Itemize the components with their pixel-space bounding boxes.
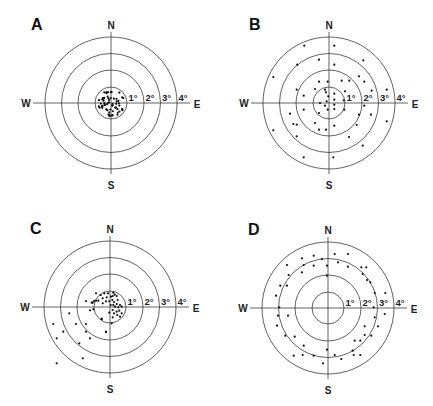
panel-letter: C xyxy=(30,220,42,237)
data-point xyxy=(341,80,343,82)
data-point xyxy=(118,102,120,104)
data-point xyxy=(313,255,315,257)
data-point xyxy=(116,114,118,116)
data-point xyxy=(78,342,80,344)
data-point xyxy=(322,362,324,364)
data-point xyxy=(284,335,286,337)
data-point xyxy=(98,99,100,101)
data-point xyxy=(360,266,362,268)
data-point xyxy=(318,129,320,131)
data-point xyxy=(363,105,365,107)
data-point xyxy=(340,358,342,360)
data-point xyxy=(93,300,95,302)
data-point xyxy=(362,273,364,275)
panel-letter: D xyxy=(248,221,260,238)
data-point xyxy=(332,156,334,158)
data-point xyxy=(325,129,327,131)
data-point xyxy=(95,300,97,302)
data-point xyxy=(286,264,288,266)
data-point xyxy=(324,105,326,107)
data-point xyxy=(325,91,327,93)
data-point xyxy=(348,80,350,82)
south-label: S xyxy=(107,384,114,395)
data-point xyxy=(105,331,107,333)
data-point xyxy=(303,109,305,111)
data-point xyxy=(56,362,58,364)
data-point xyxy=(111,322,113,324)
data-point xyxy=(364,334,366,336)
data-point xyxy=(114,306,116,308)
north-label: N xyxy=(324,225,331,236)
data-point xyxy=(333,93,335,95)
data-point xyxy=(314,122,316,124)
data-point xyxy=(313,265,315,267)
data-point xyxy=(117,100,119,102)
data-point xyxy=(114,107,116,109)
data-point xyxy=(359,354,361,356)
data-point xyxy=(319,102,321,104)
degree-label-4: 4° xyxy=(179,92,188,103)
data-point xyxy=(303,45,305,47)
data-point xyxy=(333,99,335,101)
panel-c: CNSWE1°2°3°4° xyxy=(20,220,199,395)
data-point xyxy=(68,312,70,314)
data-point xyxy=(110,304,112,306)
data-point xyxy=(277,315,279,317)
data-point xyxy=(371,90,373,92)
data-point xyxy=(103,103,105,105)
data-point xyxy=(113,301,115,303)
data-point xyxy=(98,105,100,107)
data-point xyxy=(347,253,349,255)
data-point xyxy=(106,296,108,298)
south-label: S xyxy=(108,180,115,191)
data-point xyxy=(344,90,346,92)
data-point xyxy=(113,98,115,100)
data-point xyxy=(85,323,87,325)
visual-field-figure: ANSWE1°2°3°4° BNSWE1°2°3°4° CNSWE1°2°3°4… xyxy=(0,0,433,406)
data-point xyxy=(107,91,109,93)
east-label: E xyxy=(193,303,200,314)
data-point xyxy=(111,114,113,116)
data-point xyxy=(333,104,335,106)
data-point xyxy=(334,354,336,356)
data-point xyxy=(327,81,329,83)
west-label: W xyxy=(238,303,248,314)
east-label: E xyxy=(411,304,418,315)
data-point xyxy=(278,306,280,308)
degree-label-2: 2° xyxy=(364,92,373,103)
data-point xyxy=(369,281,371,283)
degree-label-4: 4° xyxy=(397,92,406,103)
data-point xyxy=(287,315,289,317)
data-point xyxy=(106,109,108,111)
data-point xyxy=(111,299,113,301)
north-label: N xyxy=(106,224,113,235)
data-point xyxy=(112,304,114,306)
data-point xyxy=(114,294,116,296)
data-point xyxy=(347,266,349,268)
data-point xyxy=(82,357,84,359)
data-point xyxy=(101,105,103,107)
south-label: S xyxy=(325,385,332,396)
data-point xyxy=(296,64,298,66)
data-point xyxy=(366,279,368,281)
data-point xyxy=(302,354,304,356)
data-point xyxy=(359,340,361,342)
data-point xyxy=(303,345,305,347)
data-point xyxy=(102,97,104,99)
degree-label-2: 2° xyxy=(363,297,372,308)
data-point xyxy=(358,75,360,77)
data-point xyxy=(119,304,121,306)
panel-a: ANSWE1°2°3°4° xyxy=(21,16,200,191)
panel-b: BNSWE1°2°3°4° xyxy=(239,16,418,191)
data-point xyxy=(110,97,112,99)
north-label: N xyxy=(107,20,114,31)
data-point xyxy=(91,302,93,304)
data-point xyxy=(118,92,120,94)
degree-label-1: 1° xyxy=(128,296,137,307)
data-point xyxy=(318,112,320,114)
data-point xyxy=(105,300,107,302)
data-point xyxy=(286,285,288,287)
data-point xyxy=(101,318,103,320)
data-point xyxy=(384,292,386,294)
data-point xyxy=(301,257,303,259)
